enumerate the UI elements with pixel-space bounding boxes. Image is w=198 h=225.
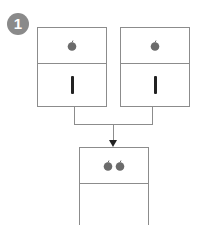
apple-icon bbox=[103, 160, 113, 171]
apple-icon bbox=[150, 40, 160, 51]
apple-icon bbox=[115, 160, 125, 171]
input-box-right bbox=[120, 27, 190, 107]
tally-cell bbox=[121, 64, 189, 106]
apple-count-cell bbox=[121, 28, 189, 64]
output-box bbox=[79, 147, 149, 225]
arrow-down-icon bbox=[109, 140, 117, 147]
apple-count-cell bbox=[80, 148, 148, 184]
tally-mark bbox=[71, 76, 74, 94]
connector-left-vertical bbox=[74, 107, 75, 124]
apple-icon bbox=[67, 40, 77, 51]
connector-right-vertical bbox=[152, 107, 153, 124]
connector-center-vertical bbox=[113, 124, 114, 141]
tally-cell bbox=[38, 64, 106, 106]
apple-count-cell bbox=[38, 28, 106, 64]
step-number-badge: 1 bbox=[7, 13, 29, 35]
tally-cell-empty bbox=[80, 184, 148, 225]
input-box-left bbox=[37, 27, 107, 107]
tally-mark bbox=[154, 76, 157, 94]
